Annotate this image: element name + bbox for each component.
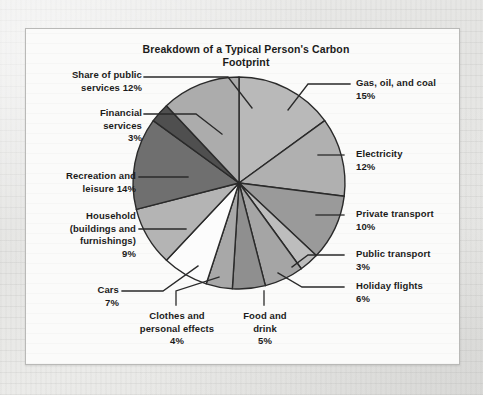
slice-label-financial-services: Financial services 3% (42, 107, 142, 145)
chart-title: Breakdown of a Typical Person's Carbon F… (126, 43, 366, 69)
slice-label-recreation-and-leisure: Recreation and leisure 14% (26, 170, 136, 195)
slice-label-private-transport: Private transport 10% (356, 208, 460, 233)
slice-label-household: Household (buildings and furnishings) 9% (32, 210, 136, 260)
slice-label-food-and-drink: Food and drink 5% (230, 310, 300, 348)
slice-label-clothes-and-personal-effects: Clothes and personal effects 4% (124, 310, 230, 348)
figure-panel: Breakdown of a Typical Person's Carbon F… (25, 28, 460, 365)
slice-label-electricity: Electricity 12% (356, 148, 456, 173)
slice-label-holiday-flights: Holiday flights 6% (356, 280, 460, 305)
slice-label-public-transport: Public transport 3% (356, 248, 460, 273)
pie-chart: Breakdown of a Typical Person's Carbon F… (26, 29, 459, 364)
slice-label-share-of-public-services: Share of public services 12% (32, 69, 142, 94)
pie-slices (133, 77, 345, 289)
slice-label-cars: Cars 7% (62, 284, 119, 309)
slice-label-gas-oil-and-coal: Gas, oil, and coal 15% (356, 77, 460, 102)
